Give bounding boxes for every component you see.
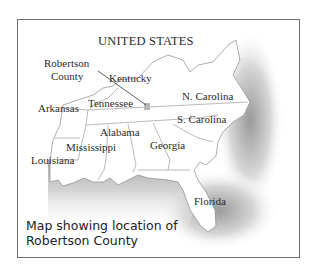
map-caption: Map showing location of Robertson County: [26, 218, 178, 248]
robertson-label-line2: County: [51, 70, 83, 82]
map-title: UNITED STATES: [98, 35, 194, 47]
state-label-kentucky: Kentucky: [109, 72, 152, 84]
state-label-florida: Florida: [194, 195, 226, 207]
state-label-louisiana: Louisiana: [31, 154, 74, 166]
state-label-south-carolina: S. Carolina: [177, 113, 227, 125]
robertson-label-line1: Robertson: [44, 57, 89, 69]
state-label-mississippi: Mississippi: [66, 141, 116, 153]
state-label-alabama: Alabama: [100, 126, 140, 138]
state-label-tennessee: Tennessee: [88, 97, 133, 109]
state-label-arkansas: Arkansas: [38, 102, 79, 114]
state-label-north-carolina: N. Carolina: [182, 90, 233, 102]
map-frame: UNITED STATES Robertson County Kentucky …: [17, 19, 300, 258]
state-label-georgia: Georgia: [150, 139, 185, 151]
